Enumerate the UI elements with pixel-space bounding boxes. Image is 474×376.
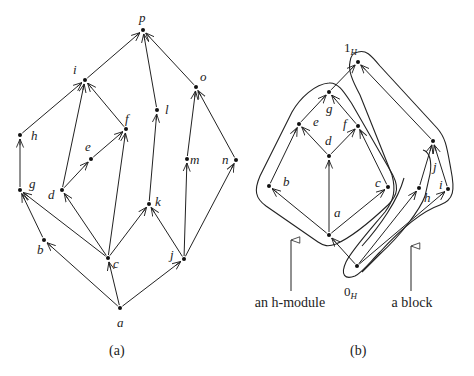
a-label-p: p [138, 10, 146, 25]
a-node-m [185, 157, 189, 161]
a-edge-f-i [88, 83, 125, 127]
b-node-d [327, 154, 331, 158]
b-label-g: g [326, 101, 333, 116]
b-label-i: i [439, 177, 443, 192]
a-label-f: f [125, 111, 131, 126]
b-edge-d-f [331, 129, 355, 154]
b-edge-a-b [272, 189, 327, 234]
b-node-0H [355, 264, 359, 268]
a-node-h [18, 133, 22, 137]
b-node-a [327, 233, 331, 237]
a-edge-a-b [47, 243, 118, 306]
a-node-f [124, 127, 128, 131]
diagram-b-caption: (b) [350, 343, 367, 359]
b-label-c: c [375, 175, 381, 190]
diagram-b: 1Hgefdjbchia0H an h-modulea block (b) [255, 40, 453, 359]
annotation-label-1: a block [392, 295, 433, 310]
b-edge-0H-a [332, 238, 355, 264]
a-label-b: b [37, 242, 44, 257]
b-label-e: e [313, 114, 319, 129]
a-edge-d-e [64, 162, 88, 188]
b-node-f [356, 124, 360, 128]
a-label-i: i [73, 62, 77, 77]
b-label-j: j [431, 159, 437, 174]
b-edge-j-1H [361, 65, 431, 139]
b-label-a: a [334, 205, 341, 220]
a-edge-c-d [64, 193, 106, 255]
a-label-e: e [85, 139, 91, 154]
diagram-a-caption: (a) [109, 343, 125, 359]
a-edge-j-k [151, 207, 182, 256]
b-label-d: d [325, 133, 332, 148]
a-node-p [141, 28, 145, 32]
a-label-d: d [48, 187, 55, 202]
a-edge-j-m [184, 163, 187, 256]
a-edge-i-p [87, 33, 140, 78]
a-label-h: h [31, 128, 38, 143]
diagram-a: piolhfemngdkbcja (a) [18, 10, 238, 359]
a-edge-o-p [146, 33, 194, 85]
a-node-c [106, 256, 110, 260]
a-label-n: n [222, 152, 229, 167]
a-label-a: a [117, 315, 124, 330]
a-label-j: j [168, 247, 174, 262]
a-node-l [155, 108, 159, 112]
b-edge-0H-h [359, 191, 417, 264]
b-node-g [327, 90, 331, 94]
a-edge-k-l [149, 114, 156, 201]
a-node-d [60, 188, 64, 192]
a-label-k: k [155, 194, 161, 209]
a-edge-c-k [110, 207, 147, 255]
b-node-h [417, 186, 421, 190]
b-edge-d-e [302, 127, 327, 154]
a-edge-n-o [198, 91, 235, 158]
diagram-b-edges [270, 65, 447, 264]
a-edge-e-f [93, 132, 123, 157]
b-label-0H: 0H [344, 284, 358, 301]
a-edge-b-g [22, 194, 43, 238]
a-edge-m-o [187, 91, 195, 156]
a-edge-l-p [144, 34, 157, 107]
a-node-i [83, 78, 87, 82]
a-edge-h-i [22, 83, 82, 133]
b-label-h: h [424, 190, 431, 205]
a-edge-c-f [108, 133, 125, 255]
a-edge-a-j [122, 261, 180, 306]
b-label-b: b [283, 174, 290, 189]
b-label-f: f [343, 116, 349, 131]
a-node-g [18, 188, 22, 192]
a-node-o [194, 85, 198, 89]
a-node-e [89, 157, 93, 161]
b-node-c [386, 185, 390, 189]
a-edge-c-g [23, 192, 105, 256]
b-node-b [267, 184, 271, 188]
diagram-b-nodes: 1Hgefdjbchia0H [267, 40, 450, 301]
b-node-i [446, 187, 450, 191]
a-edge-d-i [63, 84, 85, 187]
a-label-c: c [113, 256, 119, 271]
figure: piolhfemngdkbcja (a) 1Hgefdjbchia0H an h… [0, 0, 474, 376]
b-node-j [431, 139, 435, 143]
a-node-k [147, 202, 151, 206]
a-edge-j-n [185, 164, 234, 257]
a-label-g: g [29, 176, 36, 191]
diagram-a-nodes: piolhfemngdkbcja [18, 10, 238, 330]
a-node-j [182, 257, 186, 261]
a-node-n [234, 158, 238, 162]
a-node-a [118, 306, 122, 310]
a-label-m: m [190, 152, 199, 167]
a-label-l: l [165, 102, 169, 117]
a-label-o: o [200, 69, 207, 84]
b-label-1H: 1H [344, 40, 358, 57]
b-node-e [297, 122, 301, 126]
annotation-label-0: an h-module [255, 295, 325, 310]
b-node-1H [356, 60, 360, 64]
